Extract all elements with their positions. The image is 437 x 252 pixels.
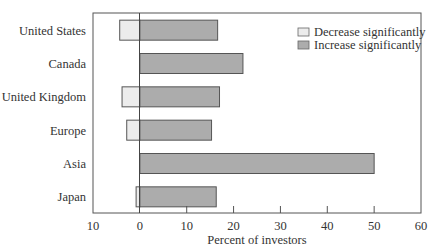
increase-bar-japan <box>140 187 216 207</box>
x-axis-ticks: 100102030405060 <box>87 206 428 233</box>
x-tick-label: 20 <box>227 219 240 233</box>
legend-swatch-increase <box>298 41 309 49</box>
diverging-bar-chart: United StatesCanadaUnited KingdomEuropeA… <box>0 0 437 252</box>
x-tick-label: 10 <box>180 219 193 233</box>
decrease-bar-united-kingdom <box>122 87 140 107</box>
increase-bar-asia <box>140 154 374 174</box>
increase-bar-europe <box>140 120 212 140</box>
category-label: Europe <box>50 124 87 138</box>
x-tick-label: 40 <box>321 219 334 233</box>
increase-bar-united-kingdom <box>140 87 220 107</box>
x-tick-label: 50 <box>368 219 381 233</box>
category-label: Canada <box>49 57 87 71</box>
x-tick-label: 30 <box>274 219 287 233</box>
category-label: United Kingdom <box>2 90 87 104</box>
x-tick-label: 10 <box>87 219 100 233</box>
legend-swatch-decrease <box>298 28 309 36</box>
category-labels: United StatesCanadaUnited KingdomEuropeA… <box>2 24 87 205</box>
decrease-bar-europe <box>127 120 140 140</box>
increase-bar-united-states <box>140 20 218 40</box>
legend-label-decrease: Decrease significantly <box>314 25 426 39</box>
x-tick-label: 0 <box>137 219 143 233</box>
x-axis-title: Percent of investors <box>207 233 306 247</box>
decrease-bar-united-states <box>120 20 140 40</box>
legend-label-increase: Increase significantly <box>314 38 422 52</box>
increase-bar-canada <box>140 54 243 74</box>
category-label: Asia <box>63 157 86 171</box>
category-label: Japan <box>58 190 87 204</box>
category-label: United States <box>19 24 86 38</box>
legend: Decrease significantlyIncrease significa… <box>298 25 426 52</box>
x-tick-label: 60 <box>415 219 428 233</box>
